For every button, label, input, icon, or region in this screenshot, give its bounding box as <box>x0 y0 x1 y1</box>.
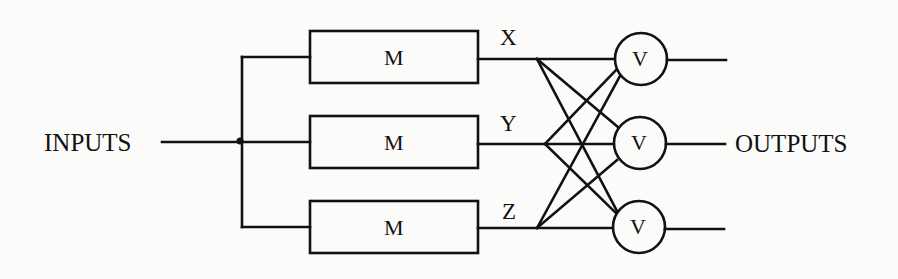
y-to-v1 <box>545 69 617 144</box>
inputs-label: INPUTS <box>44 130 132 155</box>
signal-label-z: Z <box>502 200 516 223</box>
z-to-v2 <box>537 160 617 228</box>
module-label-2: M <box>384 132 404 154</box>
signal-label-y: Y <box>500 112 517 135</box>
module-label-1: M <box>384 47 404 69</box>
outputs-label: OUTPUTS <box>735 131 848 156</box>
voter-label-3: V <box>630 216 646 238</box>
module-label-3: M <box>384 217 404 239</box>
junction-dot <box>237 138 244 145</box>
voter-label-1: V <box>632 48 648 70</box>
y-to-v3 <box>545 144 618 215</box>
signal-label-x: X <box>500 26 517 49</box>
voter-label-2: V <box>631 132 647 154</box>
x-to-v2 <box>537 59 619 128</box>
